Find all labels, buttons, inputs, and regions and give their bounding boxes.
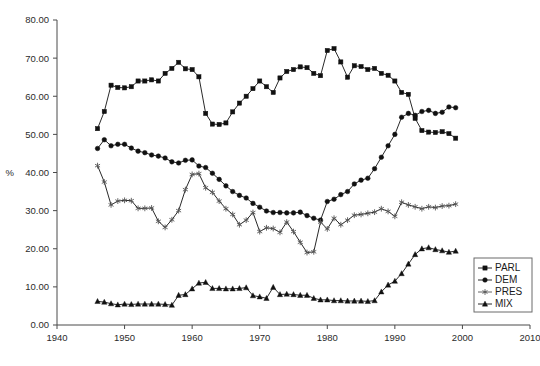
- data-point: [224, 121, 228, 125]
- data-point: [400, 90, 404, 94]
- legend-label: PARL: [495, 262, 521, 273]
- data-point: [453, 105, 458, 110]
- data-point: [345, 75, 349, 79]
- data-point: [433, 111, 438, 116]
- data-point: [230, 189, 235, 194]
- data-point: [413, 113, 418, 118]
- data-point: [406, 202, 411, 208]
- data-point: [95, 146, 100, 151]
- data-point: [190, 67, 194, 71]
- data-point: [251, 201, 256, 206]
- y-tick-label: 40.00: [25, 167, 49, 178]
- data-point: [224, 184, 229, 189]
- data-point: [136, 149, 141, 154]
- data-point: [420, 128, 424, 132]
- series-mix: [95, 245, 458, 308]
- data-point: [440, 110, 445, 115]
- data-point: [257, 205, 262, 210]
- data-point: [244, 285, 249, 290]
- data-point: [95, 163, 100, 169]
- data-point: [278, 210, 283, 215]
- data-point: [419, 206, 424, 212]
- data-point: [427, 130, 431, 134]
- y-tick-label: 0.00: [31, 319, 50, 330]
- data-point: [116, 142, 121, 147]
- figure-caption-ghost: [24, 352, 27, 361]
- data-point: [298, 65, 302, 69]
- data-point: [183, 158, 188, 163]
- data-point: [150, 78, 154, 82]
- data-point: [102, 179, 107, 185]
- data-point: [122, 86, 126, 90]
- data-point: [305, 213, 310, 218]
- data-point: [284, 211, 289, 216]
- data-point: [156, 79, 160, 83]
- data-point: [278, 76, 282, 80]
- data-point: [136, 79, 140, 83]
- data-point: [197, 75, 201, 79]
- data-point: [210, 171, 215, 176]
- data-point: [190, 158, 195, 163]
- data-point: [237, 101, 241, 105]
- data-point: [271, 90, 275, 94]
- data-point: [231, 110, 235, 114]
- data-point: [406, 92, 410, 96]
- chart-legend: PARLDEMPRESMIX: [474, 258, 532, 312]
- data-point: [386, 208, 391, 214]
- series-dem: [95, 105, 458, 223]
- data-point: [325, 48, 329, 52]
- data-point: [129, 85, 133, 89]
- y-tick-label: 50.00: [25, 129, 49, 140]
- data-point: [393, 132, 398, 137]
- data-point: [197, 164, 202, 169]
- y-tick-label: 20.00: [25, 243, 49, 254]
- data-point: [109, 83, 113, 87]
- data-point: [339, 60, 343, 64]
- x-tick-label: 1990: [384, 332, 405, 343]
- data-point: [257, 229, 262, 235]
- data-point: [318, 74, 322, 78]
- y-axis-unit-label: %: [6, 167, 15, 178]
- y-tick-label: 70.00: [25, 53, 49, 64]
- data-point: [170, 66, 174, 70]
- y-tick-label: 60.00: [25, 91, 49, 102]
- x-tick-label: 1980: [317, 332, 338, 343]
- data-point: [311, 216, 316, 221]
- data-point: [339, 192, 344, 197]
- data-point: [379, 206, 384, 212]
- data-point: [291, 211, 296, 216]
- x-tick-label: 1940: [46, 332, 67, 343]
- data-point: [426, 245, 431, 250]
- data-point: [359, 178, 364, 183]
- data-point: [203, 185, 208, 191]
- data-point: [264, 209, 269, 214]
- x-tick-label: 2010: [519, 332, 540, 343]
- data-point: [332, 46, 336, 50]
- data-point: [109, 144, 114, 149]
- data-point: [122, 142, 127, 147]
- series-parl: [95, 46, 457, 140]
- data-point: [264, 85, 268, 89]
- data-point: [244, 94, 248, 98]
- data-point: [251, 87, 255, 91]
- data-point: [312, 71, 316, 75]
- line-chart-canvas: 0.0010.0020.0030.0040.0050.0060.0070.008…: [0, 0, 540, 366]
- data-point: [345, 217, 350, 223]
- data-point: [163, 71, 167, 75]
- data-point: [183, 67, 187, 71]
- data-point: [366, 176, 371, 181]
- data-point: [156, 154, 161, 159]
- data-point: [366, 67, 370, 71]
- x-tick-label: 1970: [249, 332, 270, 343]
- data-point: [420, 109, 425, 114]
- data-point: [203, 279, 208, 284]
- data-point: [291, 67, 295, 71]
- x-tick-label: 1950: [114, 332, 135, 343]
- data-point: [122, 301, 127, 306]
- data-point: [454, 136, 458, 140]
- data-point: [271, 284, 276, 289]
- series-line-mix: [98, 248, 456, 306]
- data-point: [217, 122, 221, 126]
- data-point: [102, 109, 106, 113]
- data-point: [95, 298, 100, 303]
